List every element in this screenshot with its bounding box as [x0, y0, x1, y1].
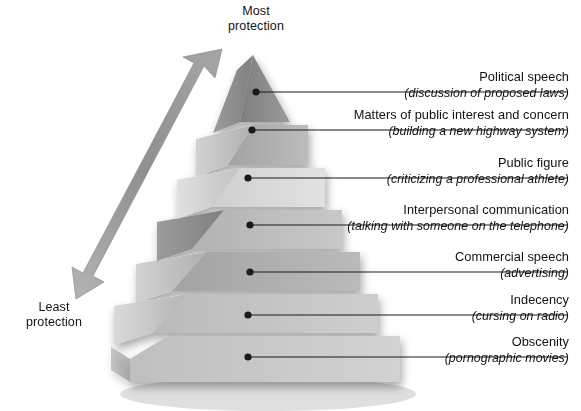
callout-example-2: (building a new highway system) — [239, 124, 569, 139]
callout-example-7: (pornographic movies) — [239, 351, 569, 366]
callout-tier-3: Public figure (criticizing a professiona… — [239, 155, 569, 187]
callout-example-6: (cursing on radio) — [239, 309, 569, 324]
callout-title-6: Indecency — [239, 292, 569, 307]
callout-tier-2: Matters of public interest and concern (… — [239, 107, 569, 139]
callout-tier-6: Indecency (cursing on radio) — [239, 292, 569, 324]
callout-title-5: Commercial speech — [239, 249, 569, 264]
callout-tier-7: Obscenity (pornographic movies) — [239, 334, 569, 366]
callout-tier-5: Commercial speech (advertising) — [239, 249, 569, 281]
callout-title-2: Matters of public interest and concern — [239, 107, 569, 122]
callout-title-4: Interpersonal communication — [239, 202, 569, 217]
callout-title-7: Obscenity — [239, 334, 569, 349]
tier-7-left-face — [111, 347, 130, 382]
callout-example-3: (criticizing a professional athlete) — [239, 172, 569, 187]
callout-tier-1: Political speech (discussion of proposed… — [239, 69, 569, 101]
callout-example-1: (discussion of proposed laws) — [239, 86, 569, 101]
callout-title-3: Public figure — [239, 155, 569, 170]
callout-title-1: Political speech — [239, 69, 569, 84]
callout-example-4: (talking with someone on the telephone) — [239, 219, 569, 234]
speech-protection-pyramid-figure: Most protection Least protection Politic… — [0, 0, 581, 411]
callout-example-5: (advertising) — [239, 266, 569, 281]
callout-tier-4: Interpersonal communication (talking wit… — [239, 202, 569, 234]
most-protection-label: Most protection — [208, 4, 304, 34]
least-protection-label: Least protection — [2, 300, 106, 330]
pyramid-ground-shadow — [120, 377, 416, 411]
